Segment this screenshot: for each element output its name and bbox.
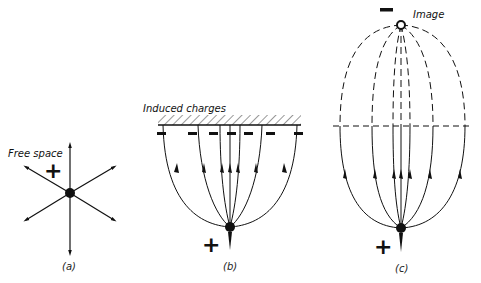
field-line-downright	[70, 193, 114, 220]
plus-sign-a: +	[44, 158, 62, 183]
field-line-downleft	[26, 193, 70, 220]
plus-sign-c: +	[374, 234, 392, 259]
conductor-hatching	[158, 115, 301, 125]
downward-field-arrow-b	[228, 232, 232, 250]
field-lines-c-image	[340, 25, 465, 126]
positive-charge-c	[396, 223, 406, 233]
field-line-upright	[70, 167, 114, 193]
field-lines-b	[163, 125, 297, 227]
downward-field-arrow-c	[399, 233, 403, 252]
panel-a: Free space + (a)	[8, 145, 114, 272]
image-charge-diagram: Free space + (a) Induced charges	[0, 0, 481, 283]
panel-c: Image + (c)	[333, 8, 472, 274]
image-label: Image	[413, 9, 444, 20]
arrowheads-c	[343, 169, 462, 179]
minus-sign-c	[380, 8, 393, 12]
caption-c: (c)	[395, 263, 408, 274]
positive-charge-b	[225, 222, 235, 232]
panel-b: Induced charges	[143, 103, 303, 272]
caption-b: (b)	[223, 261, 237, 272]
induced-charges-label: Induced charges	[143, 103, 226, 114]
image-negative-charge	[397, 21, 405, 29]
plus-sign-b: +	[202, 232, 220, 257]
caption-a: (a)	[62, 261, 76, 272]
